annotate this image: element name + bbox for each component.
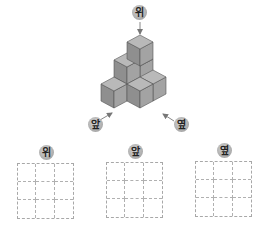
grid-cell[interactable] [125, 163, 143, 181]
grid-cell[interactable] [233, 198, 251, 216]
grid-cell[interactable] [55, 164, 73, 182]
unit-cube [101, 77, 127, 108]
grid-cell[interactable] [214, 180, 232, 198]
grid-cell[interactable] [55, 200, 73, 218]
grid-cell[interactable] [196, 180, 214, 198]
grid-cell[interactable] [125, 181, 143, 199]
grid-cell[interactable] [18, 200, 36, 218]
unit-cube [127, 35, 153, 66]
grid-cell[interactable] [107, 181, 125, 199]
top-view-grid[interactable] [17, 163, 74, 219]
grid-cell[interactable] [18, 182, 36, 200]
grid-cell[interactable] [36, 182, 54, 200]
grid-cell[interactable] [125, 199, 143, 217]
grid-cell[interactable] [214, 198, 232, 216]
side-view-grid[interactable] [195, 161, 252, 217]
grid-cell[interactable] [36, 200, 54, 218]
front-view-grid[interactable] [106, 162, 163, 218]
grid-cell[interactable] [107, 199, 125, 217]
grid-cell[interactable] [144, 163, 162, 181]
grid-cell[interactable] [196, 198, 214, 216]
grid-cell[interactable] [233, 180, 251, 198]
grid-label-side: 옆 [217, 143, 232, 158]
side-view-label: 옆 [174, 117, 189, 132]
grid-cell[interactable] [214, 162, 232, 180]
cube-stack [101, 35, 166, 108]
front-view-arrow [100, 113, 112, 120]
grid-cell[interactable] [36, 164, 54, 182]
grid-cell[interactable] [233, 162, 251, 180]
grid-cell[interactable] [107, 163, 125, 181]
grid-label-front: 앞 [128, 144, 143, 159]
grid-cell[interactable] [55, 182, 73, 200]
grid-label-top: 위 [39, 145, 54, 160]
top-view-label: 위 [132, 5, 147, 20]
grid-cell[interactable] [144, 199, 162, 217]
side-view-arrow [163, 114, 174, 121]
unit-cube [127, 77, 153, 108]
grid-cell[interactable] [18, 164, 36, 182]
front-view-label: 앞 [88, 117, 103, 132]
grid-cell[interactable] [196, 162, 214, 180]
grid-cell[interactable] [144, 181, 162, 199]
